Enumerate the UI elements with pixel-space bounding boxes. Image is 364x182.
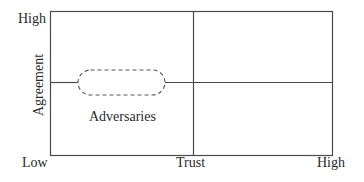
adversaries-label: Adversaries [89,110,156,124]
x-axis-high-label: High [317,156,345,170]
y-axis-low-label: Low [22,156,48,170]
y-axis-title: Agreement [32,50,46,120]
adversaries-region [78,70,165,95]
x-axis-title: Trust [176,156,205,170]
matrix-frame [51,12,333,156]
y-axis-high-label: High [18,12,46,26]
